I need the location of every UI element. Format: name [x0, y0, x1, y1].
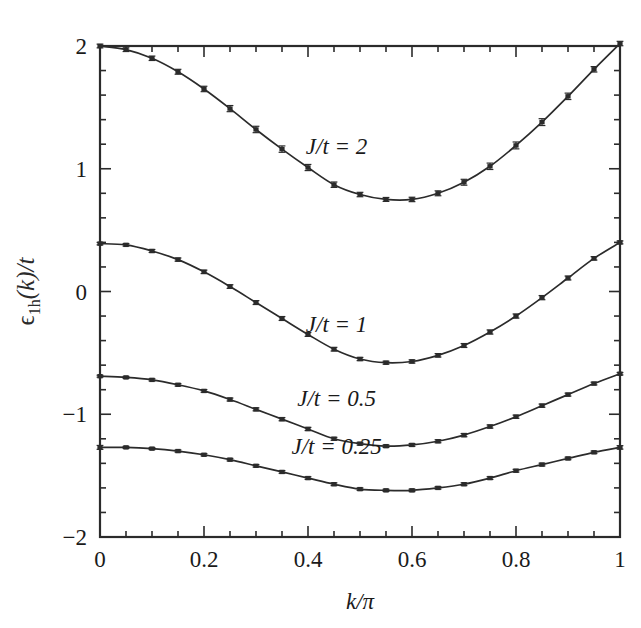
- y-axis-title: ϵ1h(k)/t: [12, 257, 43, 326]
- data-series-group: [97, 41, 624, 492]
- x-tick-label: 1: [614, 547, 626, 572]
- data-point-marker: [461, 180, 466, 184]
- data-point-marker: [201, 270, 206, 274]
- data-point-marker: [123, 445, 128, 449]
- x-axis-label-text: k/π: [346, 589, 376, 614]
- data-point-marker: [227, 457, 232, 461]
- data-point-marker: [253, 127, 258, 131]
- y-tick-label: −2: [63, 525, 87, 550]
- data-point-marker: [357, 357, 362, 361]
- series-annotation-label: J/t = 1: [306, 312, 368, 337]
- data-point-marker: [97, 241, 102, 245]
- data-point-marker: [513, 314, 518, 318]
- data-point-marker: [409, 488, 414, 492]
- data-point-marker: [149, 56, 154, 60]
- data-point-marker: [253, 407, 258, 411]
- data-point-marker: [435, 353, 440, 357]
- data-point-marker: [201, 87, 206, 91]
- data-point-marker: [175, 383, 180, 387]
- data-point-marker: [305, 165, 310, 169]
- data-point-marker: [617, 240, 622, 244]
- x-tick-label: 0.2: [190, 547, 219, 572]
- data-point-marker: [383, 197, 388, 201]
- data-point-marker: [383, 444, 388, 448]
- data-point-marker: [97, 44, 102, 48]
- data-series: [97, 41, 624, 201]
- data-point-marker: [513, 415, 518, 419]
- data-point-marker: [513, 143, 518, 147]
- x-tick-label: 0.4: [294, 547, 323, 572]
- data-point-marker: [617, 41, 622, 45]
- data-point-marker: [305, 476, 310, 480]
- y-tick-label: 2: [76, 34, 88, 59]
- data-point-marker: [331, 183, 336, 187]
- x-tick-label: 0.8: [502, 547, 531, 572]
- data-series: [97, 240, 624, 365]
- data-point-marker: [513, 469, 518, 473]
- series-annotation-label: J/t = 0.25: [291, 434, 381, 459]
- data-point-marker: [383, 360, 388, 364]
- y-axis-tick-labels: −2−1012: [63, 34, 87, 550]
- y-axis-label-text: ϵ1h(k)/t: [12, 257, 43, 326]
- data-point-marker: [617, 445, 622, 449]
- y-tick-label: −1: [63, 402, 87, 427]
- data-point-marker: [253, 464, 258, 468]
- data-point-marker: [539, 462, 544, 466]
- x-tick-label: 0: [94, 547, 106, 572]
- data-point-marker: [149, 446, 154, 450]
- data-point-marker: [149, 378, 154, 382]
- data-point-marker: [565, 456, 570, 460]
- data-point-marker: [279, 417, 284, 421]
- data-point-marker: [227, 106, 232, 110]
- data-point-marker: [487, 330, 492, 334]
- data-point-marker: [409, 197, 414, 201]
- data-point-marker: [591, 67, 596, 71]
- data-point-marker: [305, 427, 310, 431]
- data-point-marker: [97, 445, 102, 449]
- series-annotation-label: J/t = 0.5: [297, 386, 376, 411]
- data-point-marker: [123, 47, 128, 51]
- data-point-marker: [331, 347, 336, 351]
- data-point-marker: [487, 476, 492, 480]
- data-point-marker: [539, 295, 544, 299]
- figure-container: 00.20.40.60.81 −2−1012 J/t = 2J/t = 1J/t…: [0, 0, 641, 628]
- data-point-marker: [617, 372, 622, 376]
- data-point-marker: [279, 470, 284, 474]
- data-point-marker: [279, 316, 284, 320]
- data-point-marker: [461, 433, 466, 437]
- data-point-marker: [539, 403, 544, 407]
- x-axis-title: k/π: [346, 589, 376, 614]
- data-point-marker: [487, 164, 492, 168]
- data-point-marker: [227, 397, 232, 401]
- data-point-marker: [123, 375, 128, 379]
- data-point-marker: [175, 257, 180, 261]
- data-point-marker: [149, 249, 154, 253]
- data-point-marker: [461, 482, 466, 486]
- data-point-marker: [331, 482, 336, 486]
- data-point-marker: [201, 389, 206, 393]
- data-point-marker: [565, 392, 570, 396]
- data-point-marker: [123, 243, 128, 247]
- x-axis-tick-labels: 00.20.40.60.81: [94, 547, 626, 572]
- y-tick-label: 0: [76, 280, 88, 305]
- data-point-marker: [565, 94, 570, 98]
- data-point-marker: [435, 486, 440, 490]
- series-annotation-label: J/t = 2: [306, 134, 368, 159]
- data-point-marker: [461, 343, 466, 347]
- x-tick-label: 0.6: [398, 547, 427, 572]
- data-point-marker: [253, 300, 258, 304]
- data-point-marker: [175, 70, 180, 74]
- data-point-marker: [357, 192, 362, 196]
- data-point-marker: [409, 443, 414, 447]
- data-point-marker: [227, 284, 232, 288]
- data-point-marker: [487, 424, 492, 428]
- data-point-marker: [279, 147, 284, 151]
- y-axis-label-group: ϵ1h(k)/t: [12, 257, 43, 326]
- data-point-marker: [591, 450, 596, 454]
- data-point-marker: [357, 487, 362, 491]
- data-point-marker: [591, 381, 596, 385]
- dispersion-plot: 00.20.40.60.81 −2−1012 J/t = 2J/t = 1J/t…: [0, 0, 641, 628]
- data-point-marker: [409, 359, 414, 363]
- data-point-marker: [201, 453, 206, 457]
- data-point-marker: [591, 256, 596, 260]
